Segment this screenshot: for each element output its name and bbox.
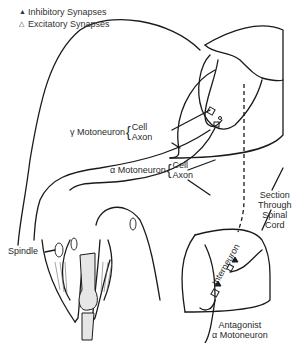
gamma-motoneuron-label: γ Motoneuron { Cell Axon [70,122,152,142]
open-triangle-icon: △ [19,18,28,30]
filled-triangle-icon: ▲ [19,6,28,18]
spindle-label: Spindle [8,246,38,256]
legend-inhibitory: ▲ Inhibitory Synapses [19,6,110,18]
bone [79,253,97,340]
interneuron-dashed-path [238,84,244,232]
upper-cord-section [170,26,283,158]
section-label: Section Through Spinal Cord [258,190,292,230]
alpha-axon [34,130,210,240]
legend-excitatory: △ Excitatory Synapses [19,18,110,30]
legend: ▲ Inhibitory Synapses △ Excitatory Synap… [19,6,110,30]
spindles [55,218,136,257]
antagonist-label: Antagonist α Motoneuron [212,320,268,340]
alpha-motoneuron-label: α Motoneuron { Cell Axon [110,160,193,180]
